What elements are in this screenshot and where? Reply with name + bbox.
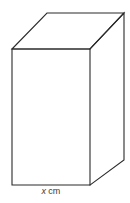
dimension-variable: x — [41, 186, 46, 196]
dimension-label: xcm — [0, 186, 102, 197]
cuboid-figure: xcm — [0, 0, 130, 203]
dimension-unit: cm — [48, 186, 60, 196]
cuboid-front-face — [12, 49, 90, 185]
cuboid-shape-svg — [0, 0, 130, 203]
